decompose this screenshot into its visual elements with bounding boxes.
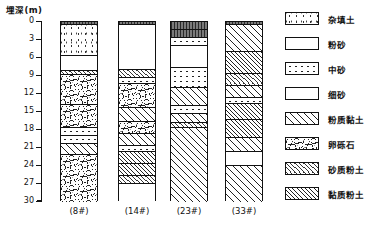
borehole-label: (8#) [49, 206, 109, 216]
legend-label: 粉砂 [328, 38, 346, 50]
borehole-column [60, 21, 98, 201]
depth-tick [36, 129, 42, 130]
soil-layer [119, 122, 155, 134]
depth-tick-label: 9 [20, 71, 34, 79]
soil-layer [226, 104, 262, 121]
legend-label: 卵砾石 [328, 138, 355, 150]
soil-layer [119, 184, 155, 202]
soil-layer [61, 136, 97, 144]
soil-layer [226, 74, 262, 86]
legend-label: 黏质粉土 [328, 188, 364, 200]
depth-tick-label: 0 [20, 17, 34, 25]
soil-layer [226, 120, 262, 138]
legend-item: 细砂 [285, 87, 346, 100]
soil-layer [119, 164, 155, 176]
soil-layer [119, 134, 155, 146]
depth-tick [36, 39, 42, 40]
legend-item: 卵砾石 [285, 137, 355, 150]
soil-layer [171, 22, 207, 30]
soil-layer [226, 52, 262, 74]
legend-swatch [285, 162, 319, 175]
legend-swatch [285, 62, 319, 75]
depth-tick [36, 201, 42, 202]
legend-item: 中砂 [285, 62, 346, 75]
depth-tick [36, 147, 42, 148]
depth-tick-label: 24 [20, 161, 34, 169]
soil-layer [61, 144, 97, 155]
soil-layer [119, 84, 155, 108]
soil-layer [61, 105, 97, 128]
legend-item: 粉质黏土 [285, 112, 364, 125]
borehole-column [225, 21, 263, 201]
borehole-log-figure: 埋深(m) 036912151821242730 (8#)(14#)(23#)(… [0, 0, 377, 227]
soil-layer [61, 128, 97, 136]
legend-swatch [285, 37, 319, 50]
legend-swatch [285, 187, 319, 200]
legend-item: 粉砂 [285, 37, 346, 50]
soil-layer [226, 166, 262, 202]
legend-swatch [285, 12, 319, 25]
borehole-column [118, 21, 156, 201]
legend-label: 细砂 [328, 88, 346, 100]
borehole-label: (33#) [214, 206, 274, 216]
depth-tick [36, 183, 42, 184]
soil-layer [171, 106, 207, 114]
soil-layer [171, 68, 207, 88]
soil-layer [226, 86, 262, 98]
soil-layer [119, 70, 155, 78]
soil-layer [61, 25, 97, 56]
legend-swatch [285, 112, 319, 125]
legend-label: 砂质粉土 [328, 163, 364, 175]
soil-layer [171, 30, 207, 37]
soil-layer [171, 88, 207, 106]
legend-item: 杂填土 [285, 12, 355, 25]
depth-tick-label: 3 [20, 35, 34, 43]
legend-item: 黏质粉土 [285, 187, 364, 200]
borehole-label: (23#) [159, 206, 219, 216]
depth-tick [36, 57, 42, 58]
borehole-column [170, 21, 208, 201]
soil-layer [226, 138, 262, 151]
depth-tick-label: 15 [20, 107, 34, 115]
depth-tick [36, 21, 42, 22]
depth-tick-label: 27 [20, 179, 34, 187]
axis-title: 埋深(m) [6, 3, 42, 15]
soil-layer [119, 176, 155, 184]
depth-tick [36, 75, 42, 76]
depth-tick-label: 6 [20, 53, 34, 61]
soil-layer [61, 75, 97, 105]
legend-label: 粉质黏土 [328, 113, 364, 125]
soil-layer [119, 25, 155, 70]
soil-layer [61, 155, 97, 202]
legend-swatch [285, 137, 319, 150]
depth-tick [36, 93, 42, 94]
soil-layer [171, 46, 207, 68]
soil-layer [226, 152, 262, 166]
depth-tick [36, 165, 42, 166]
depth-tick-label: 12 [20, 89, 34, 97]
depth-tick-label: 18 [20, 125, 34, 133]
legend-label: 杂填土 [328, 13, 355, 25]
soil-layer [226, 25, 262, 52]
depth-tick-label: 21 [20, 143, 34, 151]
borehole-label: (14#) [107, 206, 167, 216]
legend-item: 砂质粉土 [285, 162, 364, 175]
depth-tick [36, 111, 42, 112]
soil-layer [171, 114, 207, 122]
depth-tick-label: 30 [20, 197, 34, 205]
soil-layer [119, 108, 155, 121]
soil-layer [171, 128, 207, 202]
soil-layer [61, 56, 97, 72]
soil-layer [171, 38, 207, 46]
legend-swatch [285, 87, 319, 100]
soil-layer [119, 152, 155, 164]
legend-label: 中砂 [328, 63, 346, 75]
